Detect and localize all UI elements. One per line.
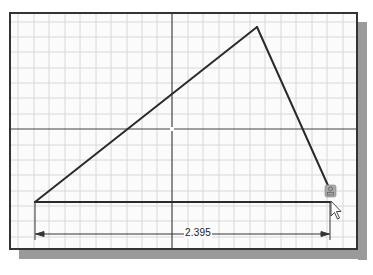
grid bbox=[9, 12, 358, 250]
axes bbox=[9, 12, 358, 250]
origin-point[interactable] bbox=[170, 127, 174, 131]
arrowhead-left-icon bbox=[36, 232, 44, 237]
line-p2-p3 bbox=[257, 27, 330, 190]
arrowhead-right-icon bbox=[321, 232, 329, 237]
coincident-constraint-icon bbox=[325, 185, 336, 197]
arrow-pointer-icon bbox=[331, 201, 341, 219]
dimension-value[interactable]: 2.395 bbox=[184, 227, 212, 239]
